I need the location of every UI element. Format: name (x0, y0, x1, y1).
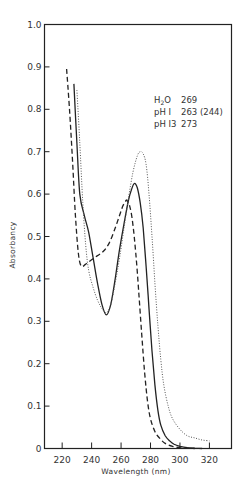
y-tick-label: 0.7 (27, 147, 41, 157)
series-dotted-line (77, 90, 210, 441)
series-solid-line (74, 84, 202, 449)
y-axis-title: Absorbancy (8, 221, 17, 268)
y-tick-label: 0.8 (27, 104, 42, 114)
legend: H2O269pH I263 (244)pH I3273 (154, 95, 223, 129)
legend-entry: H2O269 (154, 95, 197, 106)
y-tick-label: 0.5 (27, 232, 41, 242)
y-tick-label: 0.2 (27, 359, 41, 369)
x-tick-label: 260 (112, 455, 129, 465)
plot-frame (45, 25, 232, 449)
x-tick-label: 240 (83, 455, 100, 465)
legend-label: pH I3 (154, 119, 176, 129)
y-tick-label: 1.0 (27, 20, 42, 30)
legend-label: pH I (154, 107, 171, 117)
y-tick-label: 0.6 (27, 189, 42, 199)
x-tick-label: 280 (142, 455, 159, 465)
legend-entry: pH I263 (244) (154, 107, 223, 117)
x-tick-label: 300 (171, 455, 188, 465)
x-axis: 220240260280300320 (54, 443, 219, 465)
y-axis: 00.10.20.30.40.50.60.70.80.91.0 (27, 20, 49, 454)
x-tick-label: 220 (54, 455, 71, 465)
legend-label: H2O (154, 95, 171, 106)
absorbance-chart: 00.10.20.30.40.50.60.70.80.91.0 22024026… (0, 0, 246, 487)
y-tick-label: 0.1 (27, 401, 41, 411)
legend-value: 263 (244) (181, 107, 223, 117)
y-tick-label: 0.9 (27, 62, 42, 72)
y-tick-label: 0.4 (27, 274, 42, 284)
x-axis-title: Wavelength (nm) (101, 467, 170, 476)
legend-entry: pH I3273 (154, 119, 197, 129)
legend-value: 269 (181, 95, 197, 105)
y-tick-label: 0.3 (27, 316, 41, 326)
legend-value: 273 (181, 119, 197, 129)
y-tick-label: 0 (36, 444, 42, 454)
x-tick-label: 320 (201, 455, 218, 465)
